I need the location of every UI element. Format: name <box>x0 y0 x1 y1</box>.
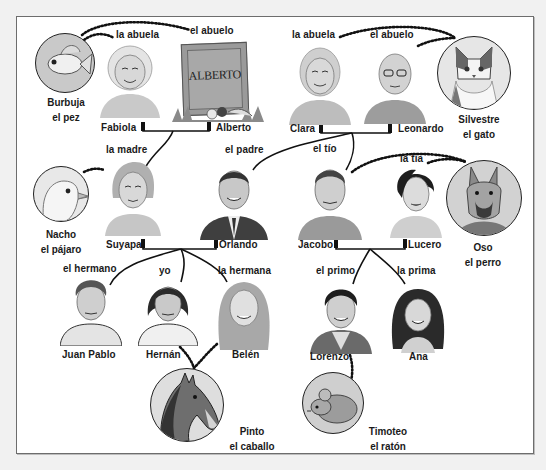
role-label-lorenzo: el primo <box>316 264 355 276</box>
portrait-hernan <box>138 272 198 346</box>
tombstone-text: ALBERTO <box>183 67 247 84</box>
mouse-icon <box>303 373 363 433</box>
pet-label-burbuja: Burbuja el pez <box>42 95 90 125</box>
pet-kind: el gato <box>452 127 505 142</box>
pet-silvestre-cat-portrait <box>437 36 511 110</box>
name-label-lorenzo: Lorenzo <box>310 350 349 362</box>
portrait-orlando <box>200 162 268 240</box>
fish-icon <box>36 34 94 92</box>
pet-name: Nacho <box>36 227 86 242</box>
name-label-juan-pablo: Juan Pablo <box>62 348 116 360</box>
name-label-clara: Clara <box>290 122 315 134</box>
role-label-fabiola: la abuela <box>116 28 159 40</box>
pet-pinto-horse-portrait <box>150 368 224 442</box>
name-label-belen: Belén <box>232 348 259 360</box>
pet-label-silvestre: Silvestre el gato <box>452 112 505 142</box>
role-label-leonardo: el abuelo <box>370 28 414 40</box>
pet-kind: el pez <box>42 110 90 125</box>
portrait-juan-pablo <box>60 272 122 346</box>
role-label-suyapa: la madre <box>106 143 147 155</box>
pet-name: Burbuja <box>42 95 90 110</box>
pet-kind: el ratón <box>364 439 412 454</box>
name-label-ana: Ana <box>409 350 428 362</box>
portrait-belen <box>214 276 274 350</box>
pet-label-timoteo: Timoteo el ratón <box>364 424 412 454</box>
cat-icon <box>438 37 510 109</box>
pet-label-nacho: Nacho el pájaro <box>36 227 86 257</box>
pet-burbuja-fish-portrait <box>35 33 95 93</box>
pet-timoteo-mouse-portrait <box>302 372 364 434</box>
role-label-ana: la prima <box>397 264 436 276</box>
pet-name: Silvestre <box>452 112 505 127</box>
name-label-lucero: Lucero <box>408 238 441 250</box>
pet-kind: el pájaro <box>36 242 86 257</box>
name-label-orlando: Orlando <box>219 238 258 250</box>
name-label-fabiola: Fabiola <box>101 121 136 133</box>
horse-icon <box>151 369 223 441</box>
portrait-lucero <box>388 162 444 238</box>
name-label-alberto: Alberto <box>216 121 251 133</box>
role-label-lucero: la tía <box>400 152 423 164</box>
pet-label-pinto: Pinto el caballo <box>228 424 276 454</box>
portrait-ana <box>389 285 447 353</box>
pet-name: Timoteo <box>364 424 412 439</box>
name-label-leonardo: Leonardo <box>398 122 444 134</box>
pet-oso-dog-portrait <box>446 160 522 236</box>
dog-icon <box>447 161 521 235</box>
portrait-fabiola <box>96 38 164 118</box>
role-label-belen: la hermana <box>218 264 271 276</box>
tombstone-grass-flowers <box>172 100 264 122</box>
role-label-orlando: el padre <box>225 143 264 155</box>
pet-name: Oso <box>456 240 509 255</box>
pet-kind: el perro <box>456 255 509 270</box>
pet-nacho-bird-portrait <box>33 166 89 222</box>
portrait-leonardo <box>362 44 428 124</box>
pet-name: Pinto <box>228 424 276 439</box>
role-label-jacobo: el tío <box>313 142 337 154</box>
portrait-suyapa <box>103 158 163 236</box>
role-label-alberto: el abuelo <box>190 24 234 36</box>
portrait-jacobo <box>298 158 362 240</box>
name-label-jacobo: Jacobo <box>298 238 333 250</box>
name-label-hernan: Hernán <box>146 348 181 360</box>
pet-kind: el caballo <box>228 439 276 454</box>
pet-label-oso: Oso el perro <box>456 240 509 270</box>
portrait-lorenzo <box>310 280 372 354</box>
role-label-hernan: yo <box>159 264 171 276</box>
bird-icon <box>34 167 88 221</box>
role-label-clara: la abuela <box>292 28 335 40</box>
name-label-suyapa: Suyapa <box>106 238 142 250</box>
role-label-juan-pablo: el hermano <box>63 262 117 274</box>
portrait-clara <box>287 40 353 125</box>
